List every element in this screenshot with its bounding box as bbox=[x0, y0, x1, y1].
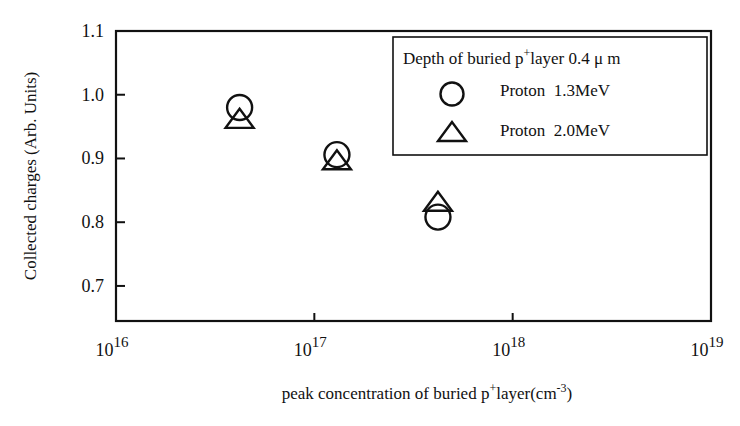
x-tick-label: 1016 bbox=[96, 334, 130, 360]
triangle-marker-icon bbox=[226, 109, 254, 128]
legend-title: Depth of buried p+layer 0.4 μ m bbox=[403, 46, 620, 68]
y-tick-label: 0.8 bbox=[82, 212, 105, 232]
y-axis-label: Collected charges (Arb. Units) bbox=[21, 72, 40, 280]
x-tick-label: 1017 bbox=[294, 334, 328, 360]
y-tick-label: 0.9 bbox=[82, 148, 105, 168]
y-tick-label: 1.1 bbox=[82, 21, 105, 41]
y-tick-label: 0.7 bbox=[82, 276, 105, 296]
legend-label: Proton 2.0MeV bbox=[500, 121, 611, 140]
y-tick-label: 1.0 bbox=[82, 85, 105, 105]
y-axis-ticks: 0.70.80.91.01.1 bbox=[82, 21, 126, 296]
circle-marker-icon bbox=[425, 205, 450, 230]
legend-label: Proton 1.3MeV bbox=[500, 81, 611, 100]
x-tick-label: 1019 bbox=[691, 334, 724, 360]
chart: 0.70.80.91.01.1 1016101710181019 Collect… bbox=[0, 0, 740, 426]
x-axis-label: peak concentration of buried p+layer(cm-… bbox=[282, 381, 573, 403]
legend: Depth of buried p+layer 0.4 μ m Proton 1… bbox=[393, 37, 707, 155]
x-tick-label: 1018 bbox=[492, 334, 525, 360]
